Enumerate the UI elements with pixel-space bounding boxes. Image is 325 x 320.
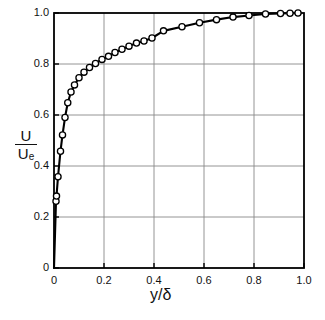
y-tick-label: 0.6 [23, 108, 49, 120]
x-tick-label: 0.6 [189, 274, 219, 286]
x-tick-label: 0 [39, 274, 69, 286]
y-tick-label: 1.0 [23, 6, 49, 18]
x-tick-label: 0.4 [139, 274, 169, 286]
y-tick-label: 0.8 [23, 57, 49, 69]
y-tick-label: 0.4 [23, 159, 49, 171]
x-axis-label: y/δ [150, 286, 230, 304]
gridlines [54, 13, 304, 268]
axis-ticks [54, 13, 304, 268]
chart-figure: U Ue y/δ 00.20.40.60.81.0 00.20.40.60.81… [0, 0, 325, 320]
y-tick-label: 0 [23, 261, 49, 273]
data-line [54, 13, 298, 268]
x-tick-label: 0.8 [239, 274, 269, 286]
x-tick-label: 1.0 [289, 274, 319, 286]
data-markers [53, 10, 301, 204]
y-tick-label: 0.2 [23, 210, 49, 222]
y-axis-label-numerator: U [6, 128, 46, 144]
y-axis-label: U Ue [6, 128, 46, 162]
x-tick-label: 0.2 [89, 274, 119, 286]
plot-frame [54, 13, 304, 268]
